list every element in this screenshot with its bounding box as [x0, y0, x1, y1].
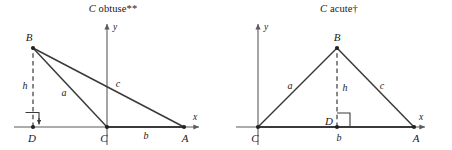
obtuse-vertex-label-B: B [26, 31, 33, 43]
geometry-figure: C obtuse** [0, 0, 452, 150]
obtuse-side-c [33, 48, 184, 127]
acute-vertex-dot-A [412, 125, 416, 129]
acute-y-axis-label: y [263, 22, 269, 32]
obtuse-side-label-a: a [62, 87, 67, 98]
obtuse-side-label-c: c [116, 78, 121, 89]
acute-vertex-dot-B [335, 46, 339, 50]
obtuse-diagram-canvas: B D C A h a c b y x [0, 0, 226, 150]
acute-vertex-label-D: D [324, 115, 333, 127]
obtuse-vertex-dot-B [31, 46, 35, 50]
acute-vertex-label-B: B [334, 31, 341, 43]
panel-obtuse: C obtuse** [0, 0, 226, 150]
acute-x-axis-label: x [418, 112, 424, 122]
panel-acute: C acute† [226, 0, 452, 150]
acute-vertex-dot-C [256, 125, 260, 129]
obtuse-vertex-label-D: D [27, 132, 36, 144]
obtuse-vertex-label-A: A [181, 132, 189, 144]
obtuse-vertex-dot-C [105, 125, 109, 129]
obtuse-side-label-h: h [23, 80, 28, 91]
obtuse-vertex-label-C: C [100, 132, 108, 144]
acute-vertex-dot-D [335, 125, 339, 129]
acute-side-label-h: h [343, 82, 348, 93]
obtuse-x-axis-label: x [192, 112, 198, 122]
acute-right-angle-marker [337, 113, 350, 126]
acute-side-label-a: a [288, 80, 293, 91]
obtuse-right-angle-marker [26, 113, 40, 122]
obtuse-side-a [33, 48, 107, 127]
acute-side-label-c: c [380, 80, 385, 91]
obtuse-vertex-dot-D [31, 125, 35, 129]
obtuse-side-label-b: b [144, 130, 149, 141]
obtuse-y-axis-label: y [112, 22, 118, 32]
acute-diagram-canvas: B C D A a h c b y x [226, 0, 452, 150]
acute-vertex-label-A: A [412, 132, 420, 144]
acute-side-label-b: b [337, 132, 342, 143]
obtuse-vertex-dot-A [182, 125, 186, 129]
acute-vertex-label-C: C [251, 132, 259, 144]
acute-side-c [337, 48, 414, 127]
